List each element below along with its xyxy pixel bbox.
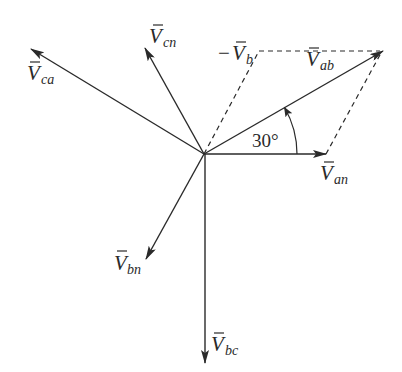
angle-annotation: 30° <box>252 108 297 155</box>
label-van-main: V <box>320 161 335 185</box>
label-vcn-main: V <box>149 24 164 48</box>
label-vbc-main: V <box>211 332 226 356</box>
vector-vcn <box>145 48 204 154</box>
angle-arc <box>285 108 298 155</box>
vector-vca <box>31 49 204 154</box>
label-minus-vb-sub: b <box>246 52 253 67</box>
label-minus-vb-sign: − <box>218 41 230 65</box>
label-vab-main: V <box>306 47 321 71</box>
angle-label: 30° <box>252 130 279 151</box>
label-vca-sub: ca <box>41 72 54 87</box>
label-vbn-sub: bn <box>127 262 141 277</box>
label-vca: V ca <box>27 61 54 87</box>
label-vcn-sub: cn <box>163 35 176 50</box>
label-vbc: V bc <box>211 332 239 358</box>
vector-labels: V an V ab V cn V ca V bn V <box>27 24 348 358</box>
label-vab-sub: ab <box>320 58 334 73</box>
label-vab: V ab <box>306 47 334 73</box>
label-minus-vb-main: V <box>232 41 247 65</box>
label-minus-vb: − V b <box>218 41 253 67</box>
label-van: V an <box>320 161 348 187</box>
label-van-sub: an <box>334 172 348 187</box>
label-vca-main: V <box>27 61 42 85</box>
label-vbc-sub: bc <box>225 343 239 358</box>
phasor-vectors <box>31 48 383 363</box>
label-vbn: V bn <box>114 251 141 277</box>
label-vcn: V cn <box>149 24 176 50</box>
phasor-diagram: 30° V an V ab V cn V ca V <box>0 0 402 372</box>
vector-vbn <box>146 154 204 259</box>
